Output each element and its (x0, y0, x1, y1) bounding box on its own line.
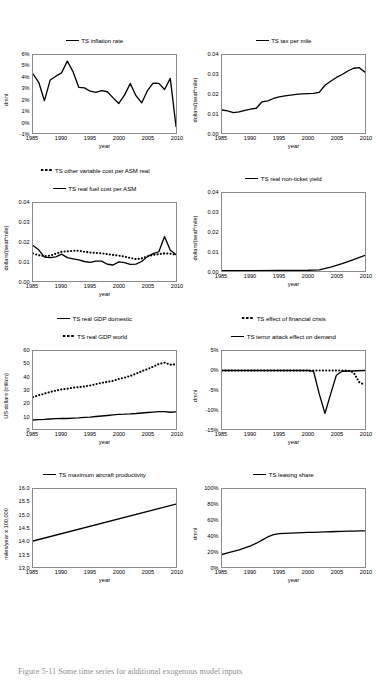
series-line (33, 251, 176, 259)
y-axis-tick-label: 40% (207, 533, 218, 539)
x-axis-tick-label: 1985 (26, 283, 38, 289)
x-axis-tick-label: 2010 (360, 431, 372, 437)
chart-variable-and-fuel-cost: TS other variable cost per ASM realTS re… (0, 154, 189, 302)
y-axis-tick-label: 40 (23, 374, 29, 380)
y-axis-tick-label: 0.03 (19, 219, 30, 225)
y-axis-tick-label: 0% (21, 120, 29, 126)
x-axis-tick-label: 2005 (331, 273, 343, 279)
y-axis-ticks: 6050403020100 (9, 350, 31, 430)
x-axis-tick-label: 1995 (84, 569, 96, 575)
plot-area (32, 202, 177, 282)
x-axis-tick-label: 1985 (215, 569, 227, 575)
x-axis-tick-label: 2010 (360, 273, 372, 279)
plot-area (221, 350, 366, 430)
x-axis-title: year (221, 577, 366, 583)
legend-entry: TS effect of financial crisis (241, 316, 326, 322)
y-axis-tick-label: 0.04 (208, 51, 219, 57)
solid-line-icon (43, 474, 56, 475)
y-axis-tick-label: 0.01 (208, 111, 219, 117)
chart-real-non-ticket-yield: TS real non-ticket yielddollars/(seat*mi… (189, 154, 378, 292)
chart-row-1: TS inflation ratedmnl6%5%4%3%2%1%0%-1%19… (0, 16, 378, 154)
legend-spacer (189, 454, 378, 462)
plot-area-wrapper: dmnl6%5%4%3%2%1%0%-1%1985199019952000200… (0, 46, 189, 154)
y-axis-tick-label: 0.02 (208, 229, 219, 235)
legend-label: TS terror attack effect on demand (247, 334, 336, 340)
plot-area-wrapper: dollars/(seat*mile)0.040.030.020.010.001… (0, 194, 189, 302)
x-axis-title: year (32, 577, 177, 583)
legend-label: TS real GDP domestic (72, 316, 132, 322)
x-axis-tick-label: 1990 (244, 273, 256, 279)
x-axis-tick-label: 1995 (84, 431, 96, 437)
x-axis-tick-label: 2000 (113, 135, 125, 141)
legend-entry: TS other variable cost per ASM real (40, 168, 150, 174)
y-axis-tick-label: 6% (21, 51, 29, 57)
chart-cell-1: TS tax per miledollars/(seat*mile)0.040.… (189, 16, 378, 154)
x-axis-tick-label: 1985 (215, 135, 227, 141)
y-axis-tick-label: 0% (210, 367, 218, 373)
chart-legend: TS maximum aircraft productivity (0, 450, 189, 480)
x-axis-tick-label: 2000 (302, 569, 314, 575)
series-line (33, 363, 176, 397)
x-axis-tick-label: 1985 (26, 135, 38, 141)
legend-label: TS tax per mile (271, 38, 311, 44)
figure-page: calibration data for the aggregate model… (0, 0, 378, 680)
chart-grid: TS inflation ratedmnl6%5%4%3%2%1%0%-1%19… (0, 16, 378, 588)
solid-line-icon (53, 188, 66, 189)
x-axis-tick-label: 2010 (171, 431, 183, 437)
x-axis-tick-label: 2000 (113, 283, 125, 289)
x-axis-tick-label: 2005 (142, 431, 154, 437)
y-axis-tick-label: 15.5 (19, 498, 30, 504)
figure-caption-container: Figure 5-11 Some time series for additio… (0, 668, 378, 680)
chart-real-gdp: TS real GDP domesticTS real GDP worldUS … (0, 302, 189, 450)
x-axis-tick-label: 2010 (360, 135, 372, 141)
series-line (33, 504, 176, 541)
chart-shock-effects: TS effect of financial crisisTS terror a… (189, 302, 378, 450)
solid-line-icon (253, 474, 266, 475)
y-axis-tick-label: 30 (23, 387, 29, 393)
solid-line-icon (256, 40, 269, 41)
legend-label: TS maximum aircraft productivity (59, 472, 146, 478)
x-axis-tick-label: 1990 (55, 135, 67, 141)
x-axis-title: year (32, 439, 177, 445)
y-axis-tick-label: 0.01 (19, 259, 30, 265)
plot-area (32, 488, 177, 568)
x-axis-tick-label: 1995 (273, 273, 285, 279)
x-axis-tick-label: 1990 (244, 431, 256, 437)
legend-spacer (189, 20, 378, 28)
y-axis-tick-label: -5% (209, 387, 219, 393)
figure-caption: Figure 5-11 Some time series for additio… (18, 668, 242, 676)
x-axis-title: year (221, 439, 366, 445)
solid-line-icon (57, 318, 70, 319)
x-axis-tick-label: 2005 (331, 569, 343, 575)
chart-legend: TS other variable cost per ASM realTS re… (0, 154, 189, 194)
y-axis-ticks: 0.040.030.020.010.00 (9, 202, 31, 282)
y-axis-tick-label: 0.01 (208, 249, 219, 255)
legend-spacer (189, 158, 378, 166)
y-axis-tick-label: 20 (23, 400, 29, 406)
series-line (33, 237, 176, 265)
y-axis-ticks: 5%0%-5%-10%-15% (198, 350, 220, 430)
solid-line-icon (245, 178, 258, 179)
legend-entry: TS real GDP domestic (57, 316, 132, 322)
x-axis-tick-label: 1985 (215, 431, 227, 437)
series-line (33, 412, 176, 420)
x-axis-tick-label: 1985 (26, 569, 38, 575)
legend-entry: TS inflation rate (66, 38, 123, 44)
plot-area (32, 350, 177, 430)
legend-label: TS real fuel cost per ASM (68, 186, 136, 192)
y-axis-tick-label: 5% (210, 347, 218, 353)
x-axis-tick-label: 1990 (55, 283, 67, 289)
plot-area (221, 192, 366, 272)
chart-leasing-share: TS leasing sharedmnl100%80%60%40%20%0%19… (189, 450, 378, 588)
y-axis-tick-label: 0.03 (208, 209, 219, 215)
x-axis-tick-label: 1995 (273, 569, 285, 575)
x-axis-tick-label: 2000 (302, 135, 314, 141)
chart-tax-per-mile: TS tax per miledollars/(seat*mile)0.040.… (189, 16, 378, 154)
y-axis-ticks: 16.015.515.014.514.013.513.0 (9, 488, 31, 568)
chart-legend: TS real GDP domesticTS real GDP world (0, 302, 189, 342)
y-axis-tick-label: 16.0 (19, 485, 30, 491)
legend-entry: TS real fuel cost per ASM (53, 186, 136, 192)
y-axis-tick-label: 15.0 (19, 512, 30, 518)
plot-area-wrapper: dollars/(seat*mile)0.040.030.020.010.001… (189, 46, 378, 154)
legend-entry: TS terror attack effect on demand (231, 334, 336, 340)
